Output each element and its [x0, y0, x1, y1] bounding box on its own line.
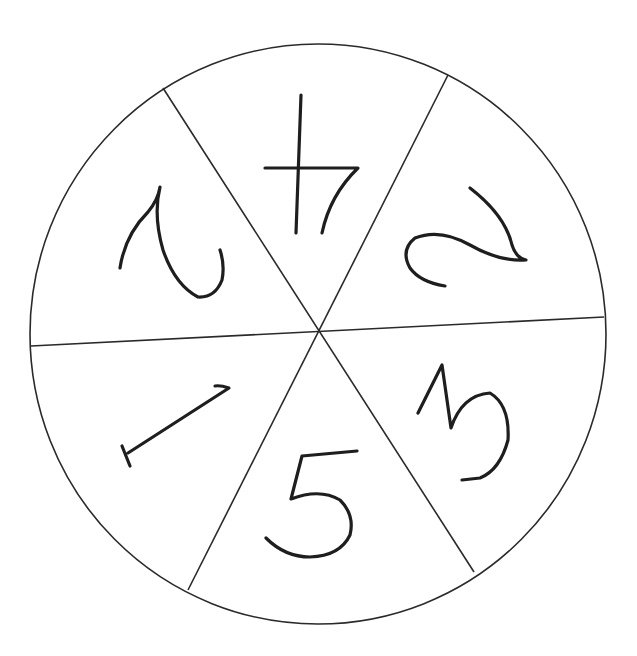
- spinner: 4 2 3 5 1 2: [0, 0, 637, 656]
